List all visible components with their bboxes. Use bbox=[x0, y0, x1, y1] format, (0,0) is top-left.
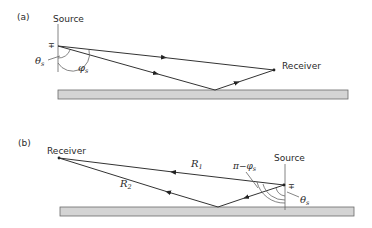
reflected-path-r2-incident-end bbox=[218, 198, 246, 208]
reflected-ray-incident-a bbox=[58, 46, 156, 74]
panel-a-label: (a) bbox=[17, 12, 30, 22]
source-label-b: Source bbox=[274, 153, 305, 163]
r1-label: R1 bbox=[190, 158, 203, 171]
theta-label-a: θs bbox=[35, 55, 45, 68]
reflected-path-r2-outgoing-end bbox=[59, 158, 168, 192]
panel-b-label: (b) bbox=[18, 138, 31, 148]
pi-minus-phi-label: π−φs bbox=[232, 161, 257, 173]
phi-label-a: φs bbox=[78, 62, 89, 75]
source-point-b bbox=[283, 184, 286, 187]
reflected-path-r2-outgoing bbox=[168, 192, 218, 207]
reflected-ray-outgoing-a bbox=[215, 83, 237, 91]
pi-minus-phi-leader-b bbox=[246, 172, 258, 188]
pi-minus-phi-arc-b-1 bbox=[263, 184, 285, 200]
direct-ray-a-end bbox=[164, 58, 274, 71]
polarity-symbol-a: ∓ bbox=[48, 41, 55, 50]
ground-surface-b bbox=[60, 207, 354, 216]
reflected-ray-outgoing-a-end bbox=[237, 70, 274, 83]
polarity-symbol-b: ∓ bbox=[288, 182, 295, 191]
panel-b: (b) Source ∓ Receiver R1 R2 bbox=[18, 138, 354, 216]
source-label-a: Source bbox=[53, 14, 84, 24]
receiver-point-a bbox=[273, 69, 276, 72]
theta-arc-b bbox=[276, 188, 285, 196]
panel-a: (a) Source ∓ Receiver θs φs bbox=[17, 12, 348, 99]
sound-propagation-diagram: (a) Source ∓ Receiver θs φs (b) bbox=[0, 0, 372, 228]
direct-path-r1-end bbox=[59, 158, 173, 172]
theta-leader-b bbox=[287, 192, 299, 197]
theta-label-b: θs bbox=[300, 194, 310, 207]
ground-surface-a bbox=[58, 90, 348, 99]
receiver-label-b: Receiver bbox=[47, 146, 86, 156]
direct-path-r1 bbox=[173, 172, 284, 185]
reflected-ray-incident-a-end bbox=[156, 74, 215, 91]
theta-arc-a bbox=[58, 50, 70, 58]
direct-ray-a bbox=[58, 46, 164, 58]
receiver-label-a: Receiver bbox=[282, 61, 321, 71]
